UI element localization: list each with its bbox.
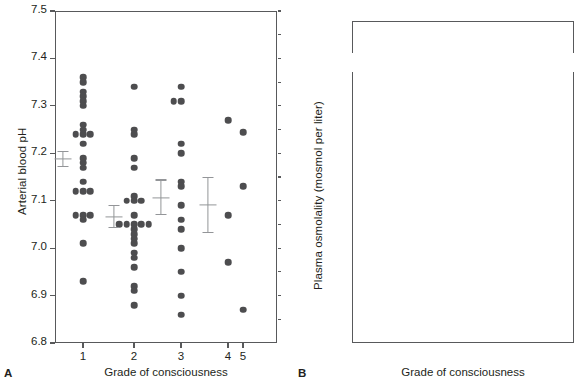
y-tick-minor-a xyxy=(278,105,281,106)
x-tick-label-a: 2 xyxy=(124,350,144,362)
data-point-a xyxy=(131,164,138,171)
data-point-a xyxy=(80,178,87,185)
error-bar-cap-bottom xyxy=(156,214,167,215)
data-point-a xyxy=(72,188,79,195)
data-point-a xyxy=(170,98,177,105)
data-point-a xyxy=(178,269,185,276)
data-point-a xyxy=(131,240,138,247)
error-bar-a xyxy=(105,205,123,228)
y-tick-a xyxy=(50,200,55,201)
data-point-a xyxy=(178,216,185,223)
data-point-a xyxy=(123,221,130,228)
plot-frame-b-upper xyxy=(352,21,574,53)
y-tick-minor-a xyxy=(278,319,281,320)
data-point-a xyxy=(72,131,79,138)
data-point-a xyxy=(178,202,185,209)
data-point-a xyxy=(87,212,94,219)
y-tick-a xyxy=(50,248,55,249)
data-point-a xyxy=(80,79,87,86)
data-point-a xyxy=(178,84,185,91)
data-point-a xyxy=(178,292,185,299)
y-tick-label-a: 7.1 xyxy=(9,193,47,205)
x-tick-a xyxy=(242,343,243,348)
x-tick-a xyxy=(180,343,181,348)
error-bar-cap-bottom xyxy=(109,227,120,228)
x-tick-label-a: 3 xyxy=(171,350,191,362)
y-tick-minor-a xyxy=(278,58,281,59)
x-tick-label-a: 1 xyxy=(73,350,93,362)
data-point-a xyxy=(123,197,130,204)
x-tick-a xyxy=(133,343,134,348)
data-point-a xyxy=(131,155,138,162)
y-tick-label-a: 7.2 xyxy=(9,145,47,157)
y-tick-minor-a xyxy=(278,271,281,272)
y-tick-minor-a xyxy=(278,248,281,249)
y-tick-label-a: 7.0 xyxy=(9,240,47,252)
x-tick-a xyxy=(82,343,83,348)
data-point-a xyxy=(80,164,87,171)
error-bar-line xyxy=(207,177,208,233)
data-point-a xyxy=(225,117,232,124)
data-point-a xyxy=(178,98,185,105)
y-tick-label-a: 6.8 xyxy=(9,335,47,347)
y-axis-label-b: Plasma osmolality (mosmol per liter) xyxy=(312,101,324,290)
data-point-a xyxy=(131,197,138,204)
data-point-a xyxy=(72,212,79,219)
y-tick-a xyxy=(50,295,55,296)
data-point-a xyxy=(178,311,185,318)
error-bar-cap-top xyxy=(203,177,214,178)
data-point-a xyxy=(178,226,185,233)
y-tick-label-a: 6.9 xyxy=(9,288,47,300)
x-tick-label-a: 5 xyxy=(233,350,253,362)
error-bar-a xyxy=(199,177,217,233)
y-tick-minor-a xyxy=(278,295,281,296)
x-axis-label-a: Grade of consciousness xyxy=(55,366,277,378)
y-tick-minor-a xyxy=(278,34,281,35)
data-point-a xyxy=(178,245,185,252)
y-tick-minor-a xyxy=(278,82,281,83)
y-tick-a xyxy=(50,342,55,343)
y-tick-label-a: 7.3 xyxy=(9,98,47,110)
panel-b: Plasma osmolality (mosmol per liter) Gra… xyxy=(292,0,585,382)
y-tick-label-a: 7.5 xyxy=(9,3,47,15)
error-bar-mean xyxy=(55,158,72,159)
error-bar-a xyxy=(54,151,72,167)
data-point-a xyxy=(80,278,87,285)
plot-frame-b-lower xyxy=(352,72,574,343)
y-tick-a xyxy=(50,58,55,59)
y-tick-a xyxy=(50,105,55,106)
y-tick-minor-a xyxy=(278,153,281,154)
data-point-a xyxy=(178,183,185,190)
panel-letter-a: A xyxy=(4,367,12,379)
data-point-a xyxy=(131,264,138,271)
panel-letter-b: B xyxy=(298,367,306,379)
data-point-a xyxy=(146,221,153,228)
data-point-a xyxy=(87,131,94,138)
y-tick-minor-a xyxy=(278,176,281,177)
error-bar-mean xyxy=(153,197,170,198)
data-point-a xyxy=(225,259,232,266)
y-tick-minor-a xyxy=(278,224,281,225)
y-tick-minor-a xyxy=(278,129,281,130)
data-point-a xyxy=(80,131,87,138)
data-point-a xyxy=(178,150,185,157)
y-tick-minor-a xyxy=(278,200,281,201)
data-point-a xyxy=(138,197,145,204)
x-axis-label-b: Grade of consciousness xyxy=(352,366,574,378)
y-tick-a xyxy=(50,10,55,11)
data-point-a xyxy=(131,288,138,295)
error-bar-cap-top xyxy=(156,179,167,180)
y-tick-label-a: 7.4 xyxy=(9,50,47,62)
data-point-a xyxy=(80,103,87,110)
panel-a: Arterial blood pH Grade of consciousness… xyxy=(0,0,292,382)
data-point-a xyxy=(138,221,145,228)
error-bar-mean xyxy=(200,204,217,205)
data-point-a xyxy=(80,188,87,195)
data-point-a xyxy=(131,212,138,219)
data-point-a xyxy=(178,141,185,148)
error-bar-a xyxy=(152,179,170,215)
data-point-a xyxy=(240,183,247,190)
data-point-a xyxy=(240,307,247,314)
error-bar-cap-top xyxy=(109,205,120,206)
data-point-a xyxy=(240,129,247,136)
